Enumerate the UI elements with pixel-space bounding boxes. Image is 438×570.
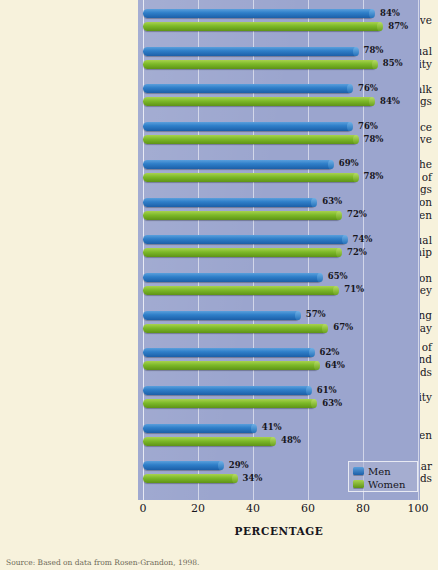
- bar-value-men-4: 69%: [339, 159, 359, 168]
- source-note: Source: Based on data from Rosen-Grandon…: [6, 558, 199, 567]
- x-tick-0: 0: [140, 502, 147, 515]
- bar-women-10: [143, 399, 316, 408]
- bar-men-8: [143, 311, 300, 320]
- bar-men-9: [143, 348, 314, 357]
- bar-value-women-11: 48%: [281, 436, 301, 445]
- bar-value-men-7: 65%: [328, 272, 348, 281]
- bar-value-men-11: 41%: [262, 423, 282, 432]
- bar-women-7: [143, 286, 338, 295]
- bar-value-women-5: 72%: [347, 210, 367, 219]
- bar-men-11: [143, 424, 256, 433]
- x-tick-20: 20: [191, 502, 205, 515]
- bar-chart: Being in loveSpouse's sexualfidelityBein…: [0, 0, 438, 570]
- x-tick-100: 100: [408, 502, 429, 515]
- bar-value-men-5: 63%: [322, 197, 342, 206]
- bar-value-men-9: 62%: [320, 348, 340, 357]
- bar-cap-icon: [369, 9, 375, 18]
- bar-cap-icon: [336, 248, 342, 257]
- bar-cap-icon: [333, 286, 339, 295]
- bar-men-12: [143, 461, 223, 470]
- bar-cap-icon: [328, 160, 334, 169]
- bar-men-0: [143, 9, 374, 18]
- bar-value-men-8: 57%: [306, 310, 326, 319]
- bar-value-men-0: 84%: [380, 9, 400, 18]
- bar-cap-icon: [317, 273, 323, 282]
- bar-cap-icon: [322, 324, 328, 333]
- bar-value-women-12: 34%: [243, 474, 263, 483]
- bar-women-8: [143, 324, 327, 333]
- x-tick-40: 40: [246, 502, 260, 515]
- bar-value-men-3: 76%: [358, 122, 378, 131]
- bar-value-men-1: 78%: [364, 46, 384, 55]
- bar-cap-icon: [314, 361, 320, 370]
- bar-women-6: [143, 248, 341, 257]
- bar-value-men-10: 61%: [317, 386, 337, 395]
- bar-men-4: [143, 160, 333, 169]
- bar-men-7: [143, 273, 322, 282]
- bar-cap-icon: [372, 60, 378, 69]
- bar-cap-icon: [311, 198, 317, 207]
- bar-cap-icon: [353, 135, 359, 144]
- bar-men-3: [143, 122, 352, 131]
- bar-women-2: [143, 97, 374, 106]
- legend-item-women: Women: [353, 478, 413, 490]
- bar-men-1: [143, 47, 358, 56]
- bar-women-9: [143, 361, 319, 370]
- x-axis-title: PERCENTAGE: [138, 525, 420, 537]
- bar-cap-icon: [353, 173, 359, 182]
- bar-cap-icon: [306, 386, 312, 395]
- legend-swatch-men-icon: [353, 467, 364, 475]
- legend-label-women: Women: [368, 479, 405, 490]
- bar-cap-icon: [311, 399, 317, 408]
- bar-value-women-6: 72%: [347, 248, 367, 257]
- bar-value-women-7: 71%: [344, 285, 364, 294]
- bar-cap-icon: [270, 437, 276, 446]
- gridline-100: [418, 0, 419, 500]
- bar-value-women-9: 64%: [325, 361, 345, 370]
- bar-value-women-4: 78%: [364, 172, 384, 181]
- bar-cap-icon: [347, 122, 353, 131]
- bar-men-6: [143, 235, 347, 244]
- legend-swatch-women-icon: [353, 480, 364, 488]
- bar-value-women-8: 67%: [333, 323, 353, 332]
- bar-cap-icon: [218, 461, 224, 470]
- bar-men-10: [143, 386, 311, 395]
- bar-cap-icon: [295, 311, 301, 320]
- bar-women-1: [143, 60, 377, 69]
- bar-value-men-12: 29%: [229, 461, 249, 470]
- bar-cap-icon: [232, 474, 238, 483]
- x-tick-80: 80: [356, 502, 370, 515]
- legend-label-men: Men: [368, 466, 391, 477]
- bar-cap-icon: [369, 97, 375, 106]
- bar-women-0: [143, 22, 382, 31]
- chart-legend: Men Women: [348, 461, 418, 492]
- x-tick-60: 60: [301, 502, 315, 515]
- bar-value-women-3: 78%: [364, 135, 384, 144]
- bar-cap-icon: [353, 47, 359, 56]
- legend-item-men: Men: [353, 465, 413, 477]
- bar-cap-icon: [342, 235, 348, 244]
- bar-cap-icon: [251, 424, 257, 433]
- bar-women-3: [143, 135, 358, 144]
- bar-value-men-6: 74%: [353, 235, 373, 244]
- plot-area: 84%87%78%85%76%84%76%78%69%78%63%72%74%7…: [138, 0, 420, 500]
- bar-value-men-2: 76%: [358, 84, 378, 93]
- bar-men-2: [143, 84, 352, 93]
- bar-women-12: [143, 474, 237, 483]
- bar-value-women-0: 87%: [388, 22, 408, 31]
- bar-value-women-2: 84%: [380, 97, 400, 106]
- bar-value-women-1: 85%: [383, 59, 403, 68]
- bar-cap-icon: [336, 211, 342, 220]
- plot-inner: 84%87%78%85%76%84%76%78%69%78%63%72%74%7…: [138, 0, 420, 500]
- bar-cap-icon: [377, 22, 383, 31]
- bar-women-11: [143, 437, 275, 446]
- bar-women-5: [143, 211, 341, 220]
- bar-cap-icon: [309, 348, 315, 357]
- bar-men-5: [143, 198, 316, 207]
- bar-value-women-10: 63%: [322, 399, 342, 408]
- bar-women-4: [143, 173, 358, 182]
- bar-cap-icon: [347, 84, 353, 93]
